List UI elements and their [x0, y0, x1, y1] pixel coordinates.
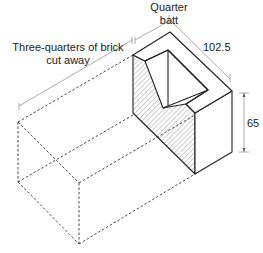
brick-diagram — [0, 0, 263, 253]
width-dimension-label: 102.5 — [203, 41, 231, 54]
height-dimension-label: 65 — [247, 117, 259, 130]
quarter-batt-label-line2: batt — [124, 14, 214, 27]
cut-away-label: Three-quarters of brick cut away — [6, 41, 130, 67]
cut-face-hatched — [133, 55, 195, 174]
quarter-batt-label-line1: Quarter — [124, 1, 214, 14]
cut-away-label-line1: Three-quarters of brick — [6, 41, 130, 54]
cut-away-label-line2: cut away — [6, 54, 130, 67]
quarter-batt-label: Quarter batt — [124, 1, 214, 27]
